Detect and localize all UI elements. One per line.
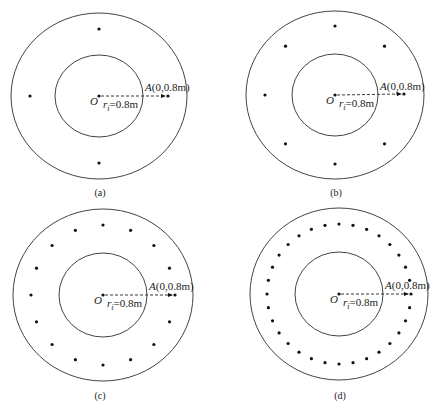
panel-caption: (d): [334, 390, 346, 402]
source-point: [404, 266, 407, 269]
source-point: [35, 267, 38, 270]
point-a-marker: [409, 292, 412, 295]
source-point: [101, 223, 104, 226]
source-point: [383, 45, 386, 48]
source-point: [323, 224, 326, 227]
source-point: [74, 229, 77, 232]
source-point: [152, 343, 155, 346]
source-point: [351, 224, 354, 227]
panel-c: Ori=0.8mA(0,0.8m)(c): [13, 209, 194, 402]
radius-label: ri=0.8m: [339, 97, 374, 112]
source-point: [97, 161, 100, 164]
point-a-label: A(0,0.8m): [379, 80, 425, 93]
source-point: [397, 254, 400, 257]
source-point: [297, 234, 300, 237]
source-point: [365, 357, 368, 360]
source-point: [287, 342, 290, 345]
source-point: [271, 319, 274, 322]
source-point: [365, 228, 368, 231]
source-point: [278, 331, 281, 334]
source-point: [377, 351, 380, 354]
point-a-label: A(0,0.8m): [384, 279, 430, 292]
source-point: [388, 243, 391, 246]
source-point: [28, 94, 31, 97]
source-point: [97, 27, 100, 30]
source-point: [35, 320, 38, 323]
source-point: [152, 244, 155, 247]
panel-caption: (a): [94, 187, 105, 199]
point-a-label: A(0,0.8m): [144, 81, 190, 94]
source-point: [397, 331, 400, 334]
source-point: [51, 244, 54, 247]
source-point: [284, 142, 287, 145]
origin-label: O: [94, 294, 102, 306]
source-point: [263, 93, 266, 96]
point-a-label: A(0,0.8m): [148, 280, 194, 293]
panel-caption: (b): [330, 187, 342, 199]
source-point: [297, 351, 300, 354]
source-point: [351, 361, 354, 364]
radius-arrow: [337, 94, 401, 95]
source-point: [333, 162, 336, 165]
source-point: [101, 363, 104, 366]
source-point: [265, 292, 268, 295]
source-point: [129, 358, 132, 361]
source-point: [129, 229, 132, 232]
source-point: [287, 243, 290, 246]
panel-caption: (c): [94, 390, 105, 402]
point-a-marker: [402, 92, 405, 95]
source-point: [404, 319, 407, 322]
source-point: [323, 361, 326, 364]
source-point: [310, 228, 313, 231]
source-point: [310, 357, 313, 360]
source-point: [29, 293, 32, 296]
source-point: [337, 362, 340, 365]
source-point: [284, 45, 287, 48]
source-point: [408, 306, 411, 309]
source-point: [333, 24, 336, 27]
panel-a: Ori=0.8mA(0,0.8m)(a): [11, 13, 190, 199]
origin-label: O: [330, 293, 338, 305]
diagram-figure: Ori=0.8mA(0,0.8m)(a) Ori=0.8mA(0,0.8m)(b…: [0, 0, 434, 409]
source-point: [383, 142, 386, 145]
source-point: [168, 267, 171, 270]
source-point: [267, 279, 270, 282]
origin-label: O: [326, 94, 334, 106]
source-point: [168, 320, 171, 323]
source-point: [51, 343, 54, 346]
source-point: [278, 254, 281, 257]
source-point: [388, 342, 391, 345]
source-point: [271, 266, 274, 269]
panel-d: Ori=0.8mA(0,0.8m)(d): [250, 208, 430, 402]
radius-label: ri=0.8m: [343, 296, 378, 311]
source-point: [377, 234, 380, 237]
radius-label: ri=0.8m: [103, 98, 138, 113]
origin-label: O: [90, 95, 98, 107]
source-point: [74, 358, 77, 361]
radius-label: ri=0.8m: [107, 297, 142, 312]
source-point: [337, 222, 340, 225]
point-a-marker: [166, 94, 169, 97]
point-a-marker: [173, 293, 176, 296]
panel-b: Ori=0.8mA(0,0.8m)(b): [246, 11, 425, 199]
source-point: [267, 306, 270, 309]
